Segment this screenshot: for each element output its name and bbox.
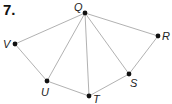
vertex-t-label: T [93, 93, 101, 104]
vertex-s-dot [127, 72, 132, 77]
edge-qr [85, 13, 158, 36]
polygon-diagram: QRSTUV [0, 0, 172, 104]
vertex-u-dot [45, 79, 50, 84]
edge-qt [85, 13, 89, 96]
edge-qu [47, 13, 85, 81]
vertex-v-label: V [3, 38, 12, 50]
vertices-group [13, 11, 161, 99]
vertex-r-dot [156, 34, 161, 39]
edge-ut [47, 81, 89, 96]
vertex-r-label: R [162, 30, 170, 42]
vertex-v-dot [13, 42, 18, 47]
edge-vu [15, 44, 47, 81]
vertex-q-dot [83, 11, 88, 16]
edge-qs [85, 13, 129, 74]
vertex-s-label: S [130, 77, 138, 89]
vertex-u-label: U [41, 86, 49, 98]
vertex-t-dot [87, 94, 92, 99]
vertex-q-label: Q [74, 1, 83, 13]
edge-sr [129, 36, 158, 74]
edge-qv [15, 13, 85, 44]
